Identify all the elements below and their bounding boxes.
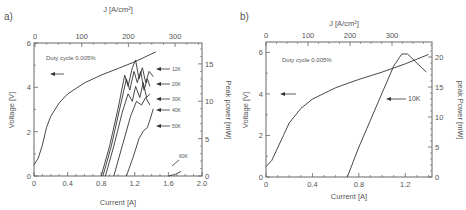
x-tick-label: 0.4 bbox=[307, 180, 317, 189]
x-tick-label: 0.8 bbox=[96, 179, 106, 188]
arrow-head-icon bbox=[50, 72, 55, 76]
y-right-tick-label: 5 bbox=[205, 135, 209, 144]
panel-a-tag: a) bbox=[4, 11, 13, 22]
label-arrow bbox=[172, 160, 179, 166]
x-tick-label: 0 bbox=[264, 180, 268, 189]
arrow-head-icon bbox=[156, 108, 161, 112]
panel-a-right-axis-label: Peak power [mW] bbox=[224, 80, 233, 139]
panel-a: a) J [A/cm²] Duty cycle 0.005% Current [… bbox=[4, 5, 233, 207]
arrow-head-icon bbox=[156, 97, 161, 101]
top-tick-label: 200 bbox=[122, 32, 135, 41]
y-right-tick-label: 20 bbox=[435, 53, 443, 62]
y-right-tick-label: 0 bbox=[205, 172, 209, 181]
x-tick-label: 1.2 bbox=[400, 180, 410, 189]
temperature-label: 12K bbox=[172, 66, 182, 72]
y-left-tick-label: 2 bbox=[27, 128, 31, 137]
temperature-label: 40K bbox=[172, 107, 182, 113]
y-left-tick-label: 6 bbox=[27, 39, 31, 48]
y-right-tick-label: 15 bbox=[205, 60, 213, 69]
temperature-label: 60K bbox=[179, 153, 189, 159]
panel-b-top-axis-label: J [A/cm²] bbox=[329, 19, 359, 28]
panel-a-top-axis-label: J [A/cm²] bbox=[103, 5, 133, 14]
figure-canvas: a) J [A/cm²] Duty cycle 0.005% Current [… bbox=[0, 0, 466, 210]
panel-a-x-axis-label: Current [A] bbox=[100, 198, 136, 207]
panel-b-left-axis-label: Voltage [V] bbox=[241, 92, 250, 128]
arrow-head-icon bbox=[386, 97, 391, 101]
panel-a-series: 12K20K30K40K50K60K bbox=[34, 52, 189, 176]
x-tick-label: 0 bbox=[32, 179, 36, 188]
y-right-tick-label: 10 bbox=[435, 113, 443, 122]
x-tick-label: 1.6 bbox=[163, 179, 173, 188]
arrow-head-icon bbox=[156, 67, 161, 71]
temperature-label: 20K bbox=[172, 81, 182, 87]
series-30k bbox=[105, 83, 149, 176]
series-voltage bbox=[266, 55, 429, 167]
panel-a-duty-cycle-note: Duty cycle 0.005% bbox=[46, 55, 96, 61]
y-left-tick-label: 2 bbox=[259, 131, 263, 140]
panel-b-x-axis-label: Current [A] bbox=[331, 192, 367, 201]
y-right-tick-label: 15 bbox=[435, 83, 443, 92]
y-right-tick-label: 5 bbox=[435, 143, 439, 152]
y-left-tick-label: 0 bbox=[259, 173, 263, 182]
arrow-head-icon bbox=[156, 124, 161, 128]
series-10k bbox=[347, 54, 426, 177]
panel-b: b) J [A/cm²] Duty cycle 0.005% Current [… bbox=[240, 11, 465, 201]
top-tick-label: 100 bbox=[302, 31, 315, 40]
top-tick-label: 200 bbox=[344, 31, 357, 40]
panel-b-ticks: 00.40.81.20246051015200100200300 bbox=[259, 31, 444, 189]
panel-b-series: 10K bbox=[266, 54, 429, 177]
panel-b-tag: b) bbox=[240, 11, 249, 22]
arrow-head-icon bbox=[280, 92, 285, 96]
arrow-head-icon bbox=[156, 82, 161, 86]
top-tick-label: 300 bbox=[386, 31, 399, 40]
x-tick-label: 0.8 bbox=[354, 180, 364, 189]
temperature-label: 30K bbox=[172, 96, 182, 102]
top-tick-label: 300 bbox=[169, 32, 182, 41]
y-left-tick-label: 0 bbox=[27, 172, 31, 181]
series-12k bbox=[101, 60, 153, 176]
series-60k bbox=[168, 172, 181, 177]
temperature-label: 10K bbox=[408, 95, 421, 102]
panel-b-duty-cycle-note: Duty cycle 0.005% bbox=[282, 57, 332, 63]
y-left-tick-label: 4 bbox=[259, 90, 263, 99]
temperature-label: 50K bbox=[172, 123, 182, 129]
x-tick-label: 0.4 bbox=[62, 179, 72, 188]
panel-b-right-axis-label: peak Power [mW] bbox=[456, 80, 465, 139]
panel-a-left-axis-label: Voltage [V] bbox=[7, 92, 16, 128]
x-tick-label: 1.2 bbox=[130, 179, 140, 188]
y-right-tick-label: 10 bbox=[205, 97, 213, 106]
y-left-tick-label: 4 bbox=[27, 83, 31, 92]
top-tick-label: 0 bbox=[33, 32, 37, 41]
y-right-tick-label: 0 bbox=[435, 173, 439, 182]
top-tick-label: 100 bbox=[75, 32, 88, 41]
top-tick-label: 0 bbox=[264, 31, 268, 40]
series-50k bbox=[126, 109, 153, 176]
y-left-tick-label: 6 bbox=[259, 48, 263, 57]
